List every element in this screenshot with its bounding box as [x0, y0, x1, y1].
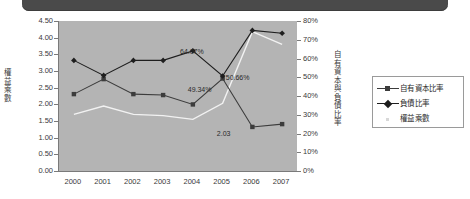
- x-tick-label: 2003: [154, 178, 171, 186]
- screenshot-root: 權益乘數 自有資本與負債比率 0.000.501.001.502.002.503…: [0, 0, 470, 199]
- left-tick-mark: [54, 154, 58, 155]
- series-1: [72, 76, 285, 129]
- right-tick-mark: [297, 96, 301, 97]
- x-tick-label: 2001: [94, 178, 111, 186]
- right-tick-mark: [297, 59, 301, 60]
- left-tick-mark: [54, 54, 58, 55]
- chart-figure: 權益乘數 自有資本與負債比率 0.000.501.001.502.002.503…: [0, 12, 470, 199]
- left-axis-ticks: 0.000.501.001.502.002.503.003.504.004.50: [18, 21, 56, 172]
- chart-svg: [59, 21, 297, 171]
- left-tick-mark: [54, 71, 58, 72]
- legend-item-own-capital-ratio[interactable]: 自有資本比率: [376, 81, 460, 96]
- legend-key-dot-icon: [376, 114, 400, 124]
- legend-label-equity-multiplier: 權益乘數: [400, 115, 429, 123]
- top-banner: [22, 0, 448, 11]
- right-tick-label: 10%: [303, 149, 318, 157]
- right-tick-label: 40%: [303, 92, 318, 100]
- left-tick-label: 2.00: [38, 101, 53, 109]
- x-tick-label: 2002: [124, 178, 141, 186]
- left-tick-mark: [54, 138, 58, 139]
- right-tick-mark: [297, 40, 301, 41]
- plot-area: [58, 21, 297, 172]
- right-tick-mark: [297, 134, 301, 135]
- left-tick-label: 2.50: [38, 84, 53, 92]
- right-tick-mark: [297, 21, 301, 22]
- left-tick-label: 4.50: [38, 17, 53, 25]
- left-axis-title: 權益乘數: [3, 68, 11, 102]
- left-tick-label: 1.00: [38, 134, 53, 142]
- right-tick-label: 60%: [303, 55, 318, 63]
- left-tick-mark: [54, 38, 58, 39]
- data-label: 50.66%: [226, 74, 250, 81]
- right-tick-label: 70%: [303, 36, 318, 44]
- right-tick-mark: [297, 171, 301, 172]
- x-axis-ticks: 20002001200220032004200520062007: [58, 178, 297, 194]
- right-tick-label: 50%: [303, 74, 318, 82]
- data-label: 64.07%: [180, 47, 204, 54]
- x-tick-label: 2007: [273, 178, 290, 186]
- right-axis-ticks: 0%10%20%30%40%50%60%70%80%: [300, 21, 334, 172]
- legend-item-debt-ratio[interactable]: 負債比率: [376, 96, 460, 111]
- legend-label-own-capital-ratio: 自有資本比率: [400, 85, 444, 93]
- left-tick-label: 4.00: [38, 34, 53, 42]
- left-tick-mark: [54, 21, 58, 22]
- left-tick-label: 0.50: [38, 151, 53, 159]
- left-tick-label: 1.50: [38, 117, 53, 125]
- x-tick-label: 2005: [213, 178, 230, 186]
- left-tick-mark: [54, 104, 58, 105]
- right-tick-label: 30%: [303, 111, 318, 119]
- legend-key-diamond-icon: [376, 99, 400, 109]
- right-tick-label: 80%: [303, 17, 318, 25]
- left-tick-label: 3.50: [38, 51, 53, 59]
- legend-label-debt-ratio: 負債比率: [400, 100, 429, 108]
- right-tick-mark: [297, 77, 301, 78]
- data-label: 49.34%: [188, 86, 212, 93]
- x-tick-label: 2000: [65, 178, 82, 186]
- data-label: 2.03: [217, 130, 231, 137]
- left-tick-mark: [54, 121, 58, 122]
- left-tick-label: 3.00: [38, 67, 53, 75]
- x-tick-label: 2006: [243, 178, 260, 186]
- x-tick-label: 2004: [184, 178, 201, 186]
- series-2: [71, 28, 285, 79]
- legend-key-square-icon: [376, 84, 400, 94]
- left-tick-label: 0.00: [38, 167, 53, 175]
- right-tick-label: 0%: [303, 167, 314, 175]
- legend-item-equity-multiplier[interactable]: 權益乘數: [376, 111, 460, 126]
- right-axis-title: 自有資本與負債比率: [333, 50, 341, 127]
- right-tick-mark: [297, 115, 301, 116]
- right-tick-label: 20%: [303, 130, 318, 138]
- chart-legend: 自有資本比率 負債比率 權益乘數: [372, 76, 464, 128]
- left-tick-mark: [54, 171, 58, 172]
- left-tick-mark: [54, 88, 58, 89]
- right-tick-mark: [297, 152, 301, 153]
